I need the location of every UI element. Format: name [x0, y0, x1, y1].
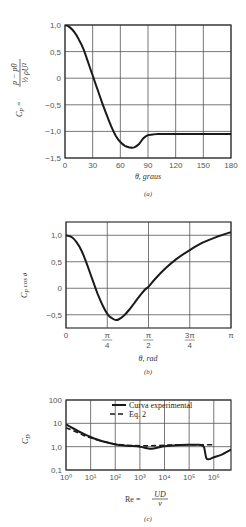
x-tick-label: 180	[224, 161, 238, 170]
y-tick-label: 0,1	[51, 466, 63, 475]
y-tick-label: −1,5	[45, 154, 61, 163]
chart-b-cp-cos-theta: 0π4π23π4π1,00,50−0,5	[46, 222, 234, 350]
x-tick-label: 10⁴	[158, 473, 171, 482]
chart-a-xlabel: θ, graus	[135, 172, 161, 181]
chart-c-drag-coefficient: 10⁰10¹10²10³10⁴10⁵10⁶100101,00,1Curva ex…	[49, 396, 231, 482]
figure: 03060901201501801,00,50−0,5−1,0−1,5 CP =…	[0, 0, 246, 527]
chart-b-caption: (b)	[144, 368, 153, 376]
x-tick-label: 10³	[134, 473, 146, 482]
x-tick-label: 10¹	[85, 473, 97, 482]
y-tick-label: 1,0	[51, 443, 63, 452]
y-tick-label: −0,5	[45, 101, 61, 110]
legend-dashed-label: Eq. 2	[129, 410, 146, 419]
chart-a-ylabel-den: ½ ρU²	[21, 62, 30, 83]
chart-c-xlabel: Re = UD ν	[125, 490, 168, 508]
x-tick-label: 10⁶	[208, 473, 220, 482]
y-tick-label: 1,0	[50, 21, 62, 30]
y-tick-label: 0,5	[51, 258, 63, 267]
x-tick-label: π	[146, 331, 152, 340]
chart-c-xlabel-den: ν	[158, 499, 162, 508]
chart-a-pressure-coefficient: 03060901201501801,00,50−0,5−1,0−1,5	[45, 21, 238, 170]
y-tick-label: 0,5	[50, 48, 62, 57]
y-tick-label: −1,0	[45, 127, 61, 136]
x-tick-label: 150	[197, 161, 211, 170]
chart-b-ylabel: CP cos θ	[20, 272, 30, 298]
x-tick-label: 10²	[109, 473, 121, 482]
y-tick-label: −0,5	[46, 311, 62, 320]
y-tick-label: 10	[53, 419, 62, 428]
x-tick-label: 30	[88, 161, 97, 170]
x-tick-label: 120	[169, 161, 183, 170]
legend: Curva experimentalEq. 2	[110, 401, 193, 419]
y-tick-label: 0	[57, 74, 62, 83]
x-tick-label: 0	[63, 161, 68, 170]
x-tick-label: π	[104, 331, 110, 340]
x-tick-label: π	[228, 331, 234, 340]
x-tick-label: 4	[188, 341, 193, 350]
chart-a-ylabel: CP = p − p0 ½ ρU²	[10, 59, 30, 117]
x-tick-label: 10⁵	[183, 473, 195, 482]
chart-c-caption: (c)	[144, 515, 152, 523]
x-tick-label: 2	[146, 341, 151, 350]
chart-c-ylabel: CD	[21, 434, 31, 444]
x-tick-label: 4	[105, 341, 110, 350]
x-tick-label: 0	[64, 331, 69, 340]
y-tick-label: 100	[49, 396, 63, 405]
chart-a-ylabel-lhs: CP =	[15, 101, 25, 117]
x-tick-label: 90	[144, 161, 153, 170]
y-tick-label: 1,0	[51, 231, 63, 240]
x-tick-label: 3π	[185, 331, 195, 340]
chart-a-ylabel-num: p − p0	[10, 64, 19, 86]
y-tick-label: 0	[58, 284, 63, 293]
chart-c-xlabel-num: UD	[154, 490, 166, 499]
chart-a-caption: (a)	[144, 190, 153, 198]
chart-b-xlabel: θ, rad	[138, 354, 158, 363]
legend-solid-label: Curva experimental	[129, 401, 193, 410]
x-tick-label: 60	[116, 161, 125, 170]
chart-c-xlabel-lhs: Re =	[125, 495, 141, 504]
